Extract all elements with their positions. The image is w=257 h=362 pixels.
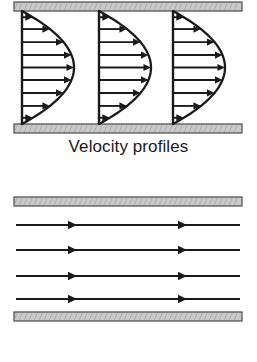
velocity-vector [22, 14, 33, 21]
channel-bottom-wall-body [14, 124, 242, 133]
velocity-vector [99, 76, 148, 83]
streamline-top-wall-body [14, 197, 242, 206]
streamline [16, 246, 240, 254]
velocity-vector [173, 114, 184, 121]
streamline-arrow-head [178, 246, 187, 254]
velocity-vector [99, 51, 148, 58]
velocity-profiles-panel: Velocity profiles [0, 0, 257, 175]
velocity-vector [173, 51, 222, 58]
velocity-profiles-caption: Velocity profiles [0, 138, 257, 155]
streamline-arrow-head [68, 221, 77, 229]
velocity-vector [22, 89, 63, 96]
velocity-vector [99, 114, 110, 121]
velocity-vector [173, 76, 222, 83]
velocity-profile-3 [173, 11, 225, 124]
velocity-vector [99, 89, 140, 96]
velocity-vector [173, 89, 214, 96]
velocity-vector [173, 14, 184, 21]
streamline-arrow-head [178, 221, 187, 229]
velocity-vector [22, 76, 71, 83]
velocity-vector [22, 64, 74, 71]
channel-top-wall-body [14, 2, 242, 11]
channel-bottom-wall [14, 124, 242, 133]
velocity-vector [99, 64, 151, 71]
streamline-bottom-wall [14, 312, 242, 321]
streamline-arrow-head [68, 246, 77, 254]
velocity-profiles-diagram [0, 0, 257, 136]
streamline-arrow-head [68, 272, 77, 280]
streamlines-panel: Streamlines [0, 186, 257, 362]
velocity-vector [173, 38, 214, 45]
velocity-profile-2 [99, 11, 151, 124]
streamline-bottom-wall-body [14, 312, 242, 321]
velocity-vector [173, 64, 225, 71]
velocity-vector [22, 51, 71, 58]
fluid-flow-figure: Velocity profiles Streamlines [0, 0, 257, 362]
velocity-vector [22, 114, 33, 121]
velocity-vector [99, 14, 110, 21]
streamline-arrow-head [178, 295, 187, 303]
velocity-vector [22, 38, 63, 45]
streamline [16, 295, 240, 303]
streamline-arrow-head [178, 272, 187, 280]
streamline [16, 272, 240, 280]
channel-top-wall [14, 2, 242, 11]
velocity-vector [99, 38, 140, 45]
streamline-top-wall [14, 197, 242, 206]
streamline [16, 221, 240, 229]
streamline-arrow-head [68, 295, 77, 303]
velocity-profile-1 [22, 11, 74, 124]
streamlines-diagram [0, 186, 257, 326]
